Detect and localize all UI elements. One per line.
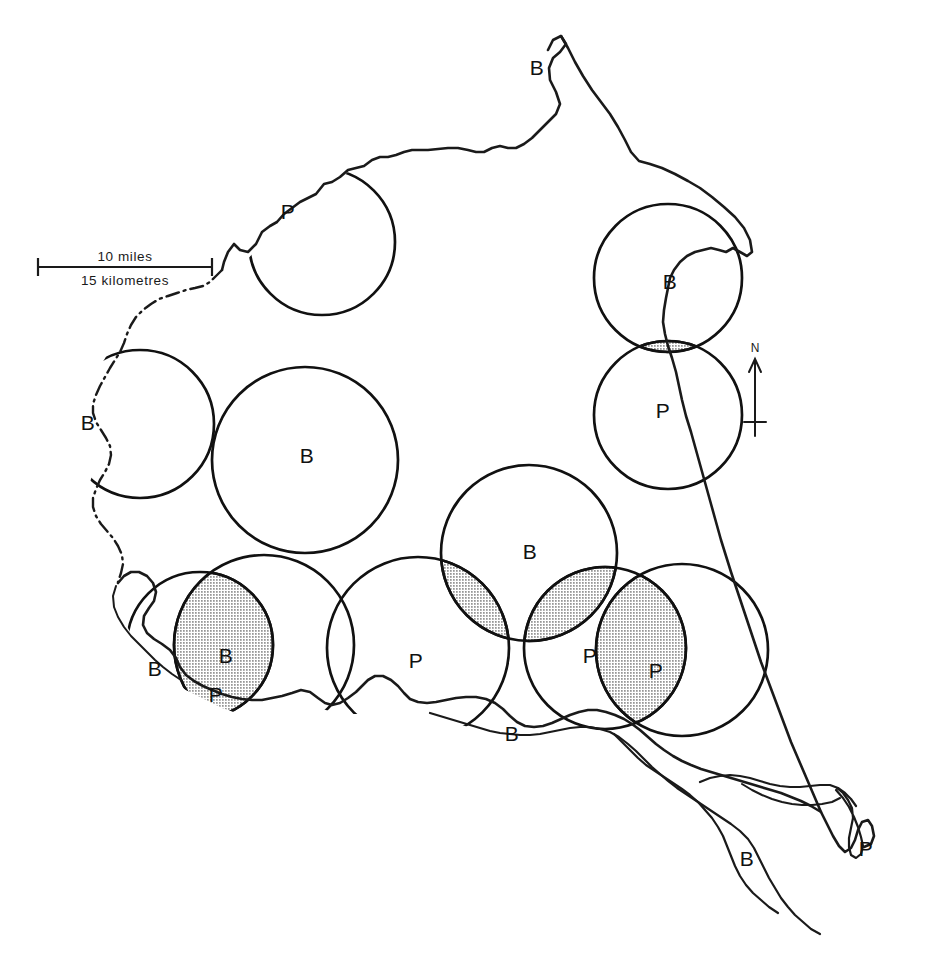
label-b-south-centre: B	[523, 540, 537, 563]
label-p-southeast-1: P	[583, 644, 597, 667]
map-labels-group: B P B P B B B B B P P P P B B P	[81, 56, 873, 870]
administrative-boundary-northwest	[93, 270, 222, 582]
scale-bar: 10 miles 15 kilometres	[38, 249, 212, 288]
label-p-far-southeast: P	[859, 837, 873, 860]
label-p-northwest: P	[281, 200, 295, 223]
cropped-caption-strip	[0, 958, 926, 972]
label-b-centre: B	[300, 444, 314, 467]
label-p-south-centre: P	[409, 649, 423, 672]
north-arrow: N	[744, 341, 766, 436]
label-p-southwest: P	[209, 683, 223, 706]
label-b-southeast-est: B	[740, 847, 754, 870]
label-p-southeast-2: P	[649, 659, 663, 682]
label-b-northeast: B	[663, 270, 677, 293]
label-b-north-coast: B	[530, 56, 544, 79]
overlap-zone-southwest	[100, 540, 400, 800]
label-b-west: B	[81, 411, 95, 434]
overlap-zones-group	[100, 180, 800, 800]
label-p-east: P	[656, 399, 670, 422]
coastline-north-headland	[561, 36, 752, 288]
map-figure: B P B P B B B B B P P P P B B P 10 miles…	[0, 0, 926, 972]
river-tributary-south	[614, 734, 778, 913]
map-container: B P B P B B B B B P P P P B B P 10 miles…	[0, 0, 926, 972]
catchment-circle-northwest-p[interactable]	[249, 169, 395, 315]
label-b-southwest: B	[148, 657, 162, 680]
scale-bar-kilometres-label: 15 kilometres	[81, 273, 169, 288]
label-b-southwest-2: B	[219, 644, 233, 667]
scale-bar-miles-label: 10 miles	[97, 249, 152, 264]
label-b-south-coast: B	[505, 722, 519, 745]
north-arrow-label: N	[751, 341, 760, 355]
